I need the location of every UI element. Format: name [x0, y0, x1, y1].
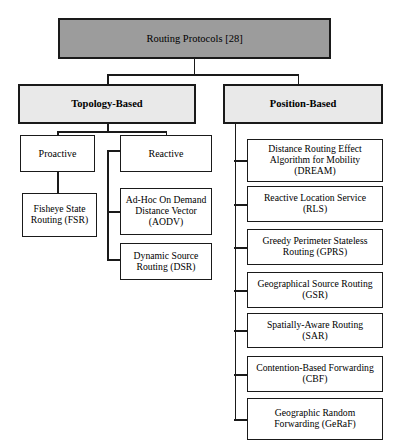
node-dsr: Dynamic Source Routing (DSR) — [120, 243, 212, 280]
connector-reactive-spine — [107, 150, 109, 260]
node-reactive: Reactive — [120, 135, 212, 172]
node-geraf: Geographic Random Forwarding (GeRaF) — [247, 398, 383, 440]
connector-root-stem — [194, 59, 196, 75]
connector-position-to-sar — [234, 330, 248, 332]
node-aodv: Ad-Hoc On Demand Distance Vector (AODV) — [120, 188, 212, 235]
connector-reactive-elbow — [107, 150, 121, 152]
node-cbf: Contention-Based Forwarding (CBF) — [247, 356, 383, 392]
connector-topology-bus — [57, 131, 167, 133]
node-position-based: Position-Based — [223, 84, 383, 124]
node-topology-based: Topology-Based — [18, 84, 196, 124]
node-rls: Reactive Location Service (RLS) — [247, 186, 383, 222]
node-dream: Distance Routing Effect Algorithm for Mo… — [247, 139, 383, 182]
connector-reactive-to-dsr — [107, 259, 121, 261]
node-routing-protocols-root: Routing Protocols [28] — [58, 18, 331, 59]
connector-position-to-rls — [234, 204, 248, 206]
connector-position-to-dream — [234, 160, 248, 162]
connector-position-to-cbf — [234, 374, 248, 376]
node-gsr: Geographical Source Routing (GSR) — [247, 272, 383, 308]
node-fisheye-state-routing: Fisheye State Routing (FSR) — [22, 193, 97, 237]
connector-reactive-to-aodv — [107, 211, 121, 213]
node-proactive: Proactive — [20, 135, 95, 172]
routing-protocols-tree-diagram: Routing Protocols [28] Topology-Based Po… — [0, 0, 403, 447]
node-gprs: Greedy Perimeter Stateless Routing (GPRS… — [247, 229, 383, 265]
node-sar: Spatially-Aware Routing (SAR) — [247, 313, 383, 348]
connector-position-to-gsr — [234, 290, 248, 292]
connector-proactive-to-fsr — [57, 172, 59, 193]
connector-root-bus — [107, 74, 299, 76]
connector-position-to-gprs — [234, 247, 248, 249]
connector-position-to-geraf — [234, 419, 248, 421]
connector-position-spine — [235, 124, 237, 420]
